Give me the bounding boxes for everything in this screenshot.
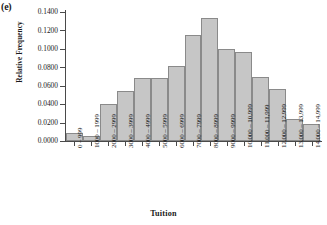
y-axis-tick-label: 0.0200 <box>22 119 58 126</box>
y-axis-tick-mark <box>60 12 65 13</box>
x-axis-tick-label: 7000 – 7999 <box>196 114 203 148</box>
x-axis-tick-mark <box>176 142 177 146</box>
y-axis-tick-mark <box>60 49 65 50</box>
x-axis-tick-label: 5000 – 5999 <box>162 114 169 148</box>
x-axis-tick-label: 14,000 – 14,999 <box>315 104 322 148</box>
y-axis-tick-label: 0.0600 <box>22 82 58 89</box>
x-axis-tick-label: 4000 – 4999 <box>145 114 152 148</box>
panel-letter: (e) <box>1 1 12 13</box>
y-axis-tick-label: 0.1400 <box>22 8 58 15</box>
y-axis-tick-label: 0.0000 <box>22 137 58 144</box>
y-axis-tick-mark <box>60 104 65 105</box>
x-axis-title: Tuition <box>0 209 327 218</box>
x-axis-tick-label: 3000 – 3999 <box>128 114 135 148</box>
x-axis-tick-label: 1000 – 1999 <box>94 114 101 148</box>
y-axis-tick-mark <box>60 30 65 31</box>
x-axis-tick-mark <box>295 142 296 146</box>
x-axis-tick-label: 6000 – 6999 <box>179 114 186 148</box>
y-axis-tick-mark <box>60 67 65 68</box>
x-axis-tick-label: 0 – 999 <box>77 128 84 148</box>
x-axis-tick-label: 8000 – 8999 <box>213 114 220 148</box>
x-axis-tick-mark <box>244 142 245 146</box>
x-axis-tick-mark <box>159 142 160 146</box>
y-axis-tick-labels: 0.14000.12000.10000.08000.06000.04000.02… <box>20 0 58 225</box>
x-axis-tick-label: 2000 – 2999 <box>111 114 118 148</box>
x-axis-tick-label: 10,000 – 10,999 <box>247 104 254 148</box>
x-axis-tick-mark <box>278 142 279 146</box>
y-axis-tick-mark <box>60 123 65 124</box>
x-axis-tick-mark <box>261 142 262 146</box>
x-axis-tick-mark <box>210 142 211 146</box>
x-axis-tick-mark <box>193 142 194 146</box>
y-axis-tick-label: 0.0400 <box>22 100 58 107</box>
y-axis-tick-label: 0.1200 <box>22 27 58 34</box>
y-axis-tick-label: 0.0800 <box>22 64 58 71</box>
histogram-figure: (e) Relative Frequency 0.14000.12000.100… <box>0 0 327 225</box>
x-axis-tick-mark <box>227 142 228 146</box>
x-axis-tick-label: 9000 – 9999 <box>230 114 237 148</box>
x-axis-tick-label: 11,000 – 11,999 <box>264 105 271 148</box>
x-axis-tick-label: 13,000 – 13,999 <box>298 104 305 148</box>
x-axis-tick-mark <box>312 142 313 146</box>
y-axis-tick-mark <box>60 86 65 87</box>
y-axis-tick-label: 0.1000 <box>22 45 58 52</box>
y-axis-tick-mark <box>60 141 65 142</box>
x-axis-tick-label: 12,000 – 12,999 <box>281 104 288 148</box>
